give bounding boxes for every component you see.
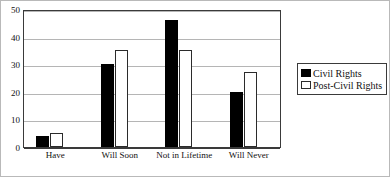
chart-figure: 01020304050 HaveWill SoonNot in Lifetime…	[0, 0, 390, 177]
bar	[101, 64, 114, 147]
bar	[244, 72, 257, 147]
bar-group	[24, 11, 89, 147]
x-tick-label: Not in Lifetime	[156, 150, 212, 161]
bar	[36, 136, 49, 147]
bar-group	[153, 11, 218, 147]
plot-area	[23, 10, 281, 148]
legend-swatch-icon	[301, 69, 311, 77]
legend-label: Civil Rights	[313, 68, 362, 79]
x-tick-label: Will Soon	[102, 150, 138, 161]
bar	[115, 50, 128, 147]
bar-group	[218, 11, 283, 147]
legend-swatch-icon	[301, 81, 311, 89]
y-tick-label-50: 50	[11, 6, 20, 15]
x-axis: HaveWill SoonNot in LifetimeWill Never	[23, 150, 281, 166]
legend-item: Post-Civil Rights	[301, 79, 382, 91]
x-tick-label: Will Never	[229, 150, 269, 161]
gridline-0	[24, 148, 280, 149]
y-axis: 01020304050	[1, 10, 22, 148]
bar	[230, 92, 243, 147]
legend-item: Civil Rights	[301, 67, 382, 79]
y-tick-label-10: 10	[11, 116, 20, 125]
bar	[179, 50, 192, 147]
chart-legend: Civil RightsPost-Civil Rights	[297, 63, 387, 95]
bar	[165, 20, 178, 147]
y-tick-label-20: 20	[11, 88, 20, 97]
y-tick-label-40: 40	[11, 33, 20, 42]
bar	[50, 133, 63, 147]
y-tick-label-30: 30	[11, 61, 20, 70]
y-tick-label-0: 0	[16, 144, 21, 153]
bar-group	[89, 11, 154, 147]
legend-label: Post-Civil Rights	[313, 80, 382, 91]
x-tick-label: Have	[46, 150, 65, 161]
bars-layer	[24, 11, 280, 147]
